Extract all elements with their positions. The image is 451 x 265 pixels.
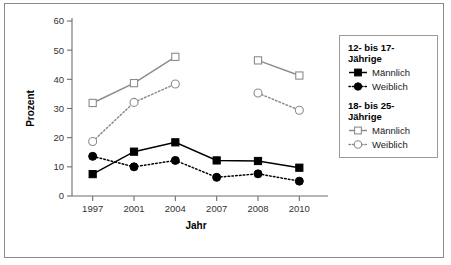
data-series-layer	[89, 53, 304, 185]
data-point-open-circle	[254, 89, 262, 97]
y-axis-title: Prozent	[25, 89, 36, 126]
data-point-open-square	[130, 80, 137, 87]
y-tick-label: 40	[53, 74, 64, 85]
data-point-open-square	[296, 72, 303, 79]
figure-container: 0102030405060 199720012004200720082010 P…	[0, 0, 451, 265]
series-2	[89, 53, 303, 106]
data-point-filled-circle	[254, 170, 262, 178]
legend-entry-label: Weiblich	[372, 81, 408, 92]
legend-entry-label: Weiblich	[372, 139, 408, 150]
series-path	[258, 60, 299, 75]
y-tick-label: 30	[53, 103, 64, 114]
legend-group-title: 18- bis 25- Jährige	[348, 100, 430, 122]
series-0	[89, 139, 303, 178]
x-axis-title: Jahr	[185, 220, 206, 231]
x-tick-label: 2008	[247, 203, 268, 214]
data-point-filled-circle	[295, 177, 303, 185]
x-tick-label: 2004	[165, 203, 186, 214]
y-tick-label: 60	[53, 15, 64, 26]
legend-group-title: 12- bis 17- Jährige	[348, 42, 430, 64]
y-tick-label: 10	[53, 161, 64, 172]
data-point-filled-square	[213, 157, 220, 164]
data-point-open-circle	[130, 98, 138, 106]
data-point-filled-circle	[130, 163, 138, 171]
x-tick-label: 2010	[289, 203, 310, 214]
y-tick-label: 0	[59, 190, 64, 201]
legend-entry[interactable]: Weiblich	[348, 138, 430, 150]
legend-marker-open-circle	[348, 139, 368, 150]
legend-entry[interactable]: Weiblich	[348, 80, 430, 92]
x-axis-ticks: 199720012004200720082010	[82, 196, 310, 214]
y-tick-label: 20	[53, 132, 64, 143]
data-point-open-circle	[89, 137, 97, 145]
legend-entry[interactable]: Männlich	[348, 124, 430, 136]
data-point-open-square	[172, 53, 179, 60]
legend-marker-filled-circle	[348, 81, 368, 92]
series-path	[93, 156, 300, 181]
data-point-filled-circle	[89, 152, 97, 160]
chart-legend: 12- bis 17- JährigeMännlichWeiblich18- b…	[339, 35, 438, 158]
data-point-open-square	[254, 57, 261, 64]
data-point-open-circle	[171, 80, 179, 88]
data-point-open-circle	[295, 106, 303, 114]
legend-entry-label: Männlich	[372, 125, 410, 136]
data-point-filled-square	[89, 171, 96, 178]
data-point-filled-square	[254, 157, 261, 164]
data-point-open-square	[89, 99, 96, 106]
x-tick-label: 2001	[123, 203, 144, 214]
legend-marker-filled-square	[348, 67, 368, 78]
y-axis-ticks: 0102030405060	[53, 15, 72, 201]
data-point-filled-square	[296, 164, 303, 171]
data-point-filled-circle	[213, 173, 221, 181]
legend-entry-label: Männlich	[372, 67, 410, 78]
series-1	[89, 152, 304, 185]
data-point-filled-square	[172, 139, 179, 146]
y-tick-label: 50	[53, 45, 64, 56]
x-tick-label: 2007	[206, 203, 227, 214]
data-point-filled-square	[130, 148, 137, 155]
x-tick-label: 1997	[82, 203, 103, 214]
data-point-filled-circle	[171, 156, 179, 164]
legend-group-spacer	[348, 92, 430, 100]
legend-marker-open-square	[348, 125, 368, 136]
legend-entry[interactable]: Männlich	[348, 66, 430, 78]
series-path	[258, 93, 299, 110]
series-path	[93, 84, 176, 141]
